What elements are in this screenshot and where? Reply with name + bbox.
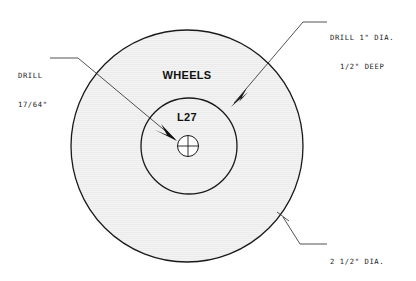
part-number: L27 — [137, 110, 237, 124]
part-title-block: WHEELS L27 — [137, 40, 237, 152]
annotation-outer-diameter-line1: 2 1/2" DIA. — [330, 257, 384, 267]
annotation-drill-small-line1: DRILL — [18, 71, 48, 81]
annotation-outer-diameter: 2 1/2" DIA. — [330, 238, 384, 281]
part-title: WHEELS — [137, 68, 237, 82]
annotation-drill-counterbore-line1: DRILL 1" DIA. — [330, 33, 394, 43]
leader-line-outer-dia — [277, 212, 327, 244]
annotation-drill-counterbore: DRILL 1" DIA. 1/2" DEEP — [330, 14, 394, 90]
annotation-drill-small: DRILL 17/64" — [18, 52, 48, 128]
annotation-drill-small-line2: 17/64" — [18, 100, 48, 110]
technical-drawing-canvas: DRILL 17/64" DRILL 1" DIA. 1/2" DEEP 2 1… — [0, 0, 416, 281]
annotation-drill-counterbore-line2: 1/2" DEEP — [330, 62, 394, 72]
